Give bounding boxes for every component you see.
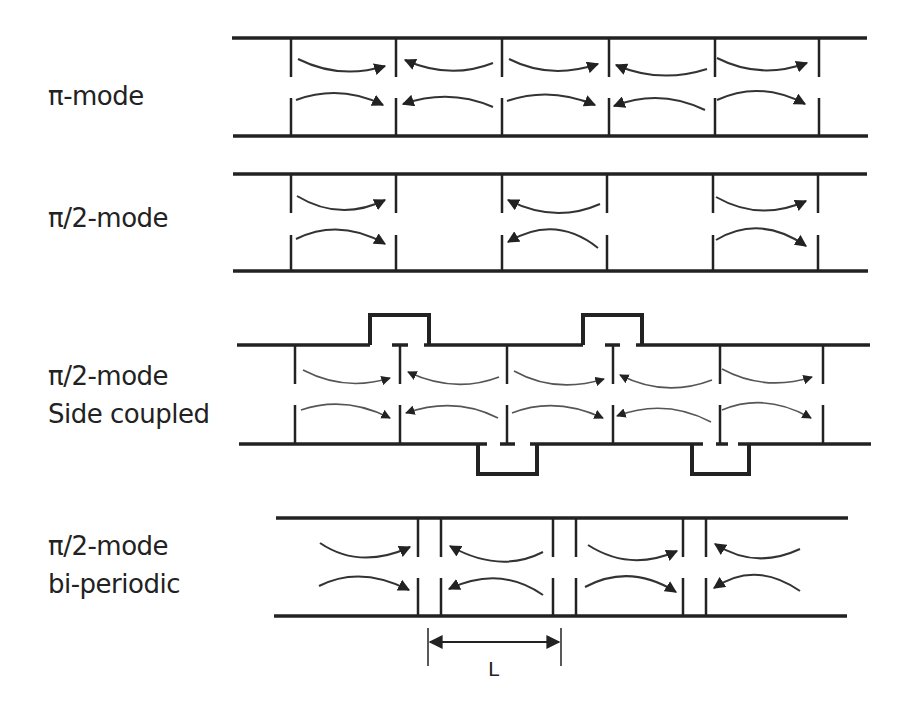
panel-side-coupled bbox=[237, 315, 871, 474]
panel-pi2-mode bbox=[233, 174, 868, 271]
panel-pi-mode bbox=[232, 38, 868, 136]
cavity-diagram bbox=[0, 0, 909, 718]
panel-bi-periodic bbox=[274, 518, 848, 666]
dimension-label-L: L bbox=[488, 657, 499, 681]
